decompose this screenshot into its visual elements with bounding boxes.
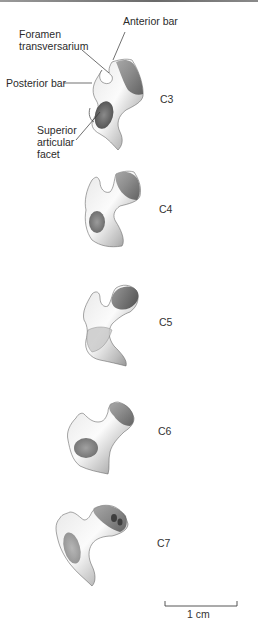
- vertebra-c5: [83, 282, 142, 366]
- scale-bar: [165, 601, 237, 606]
- vertebra-label-c4: C4: [159, 203, 172, 215]
- vertebrae-illustration: [0, 0, 258, 629]
- vertebra-c7: [56, 505, 128, 586]
- vertebra-label-c6: C6: [158, 425, 171, 437]
- vertebra-c6: [67, 402, 134, 474]
- label-posterior-bar: Posterior bar: [6, 77, 66, 89]
- label-foramen-line2: transversarium: [19, 40, 88, 52]
- vertebra-label-c5: C5: [159, 316, 172, 328]
- label-superior-line1: Superior: [37, 124, 77, 136]
- label-anterior-bar: Anterior bar: [123, 15, 178, 27]
- label-foramen-line1: Foramen: [19, 28, 61, 40]
- label-superior-line2: articular: [37, 136, 74, 148]
- scale-bar-label: 1 cm: [187, 608, 210, 620]
- label-superior-line3: facet: [37, 148, 60, 160]
- vertebra-label-c7: C7: [157, 537, 170, 549]
- vertebra-label-c3: C3: [160, 93, 173, 105]
- vertebra-c4: [85, 171, 140, 247]
